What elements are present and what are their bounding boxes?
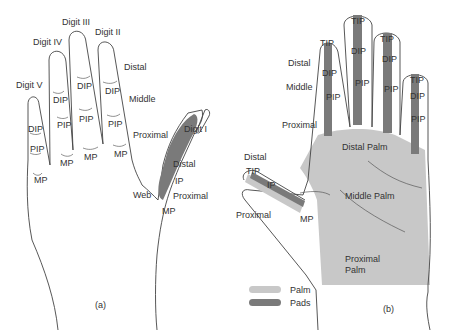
label-thumb-ip-a: IP [175,176,184,186]
label-pip-iv-b: PIP [384,84,399,94]
legend-swatch-pads [249,299,281,306]
label-thumb-ip-b: IP [267,180,276,190]
label-dip-iv-b: DIP [382,54,397,64]
label-pip-ii-b: PIP [326,92,341,102]
label-dip-iv: DIP [53,95,68,105]
panel-b: Distal Middle Proximal TIP DIP PIP TIP D… [236,15,430,330]
panel-a: Digit V Digit IV Digit III Digit II Digi… [16,17,210,330]
label-tip-iii: TIP [351,16,365,26]
caption-a: (a) [95,300,106,310]
label-digit-iv: Digit IV [33,37,62,47]
label-tip-iv: TIP [380,34,394,44]
label-proximal-palm-2: Palm [345,265,366,275]
legend-swatch-palm [249,286,281,293]
label-mp-iv: MP [60,158,74,168]
label-pip-v: PIP [30,144,45,154]
label-distal-a: Distal [124,62,147,72]
label-dip-iii-b: DIP [351,46,366,56]
label-digit-iii: Digit III [62,17,90,27]
label-tip-ii: TIP [320,38,334,48]
label-dip-ii-b: DIP [322,68,337,78]
label-dip-v-b: DIP [410,91,425,101]
label-middle-palm: Middle Palm [345,191,395,201]
label-dip-ii: DIP [105,86,120,96]
label-mp-ii: MP [114,149,128,159]
label-proximal-b: Proximal [282,120,317,130]
label-thumb-proximal-a: Proximal [173,191,208,201]
legend-label-pads: Pads [290,298,311,308]
label-pip-ii: PIP [108,119,123,129]
label-dip-iii: DIP [77,81,92,91]
label-mp-iii: MP [84,152,98,162]
label-digit-i: Digit I [184,124,207,134]
label-pip-iii: PIP [79,114,94,124]
label-mp-v: MP [34,175,48,185]
label-pip-iv: PIP [57,120,72,130]
label-pip-v-b: PIP [411,114,426,124]
label-distal-b: Distal [288,58,311,68]
label-proximal-a: Proximal [133,130,168,140]
hand-diagram: Digit V Digit IV Digit III Digit II Digi… [0,0,450,336]
label-dip-v: DIP [28,124,43,134]
thumb-pad-b [250,172,305,207]
label-proximal-palm-1: Proximal [345,254,380,264]
label-digit-ii: Digit II [95,27,121,37]
label-thumb-proximal-b: Proximal [236,210,271,220]
label-digit-v: Digit V [16,80,43,90]
label-thumb-mp-b: MP [300,214,314,224]
legend-label-palm: Palm [290,285,311,295]
legend: Palm Pads [249,285,311,308]
label-distal-palm: Distal Palm [342,142,388,152]
label-thumb-distal-b: Distal [244,152,267,162]
label-thumb-distal-a: Distal [173,159,196,169]
label-web-a: Web [133,190,151,200]
label-middle-b: Middle [286,82,313,92]
label-thumb-mp-a: MP [162,206,176,216]
label-tip-v: TIP [410,75,424,85]
label-thumb-tip-b: TIP [246,166,260,176]
label-pip-iii-b: PIP [355,78,370,88]
caption-b: (b) [383,304,394,314]
label-middle-a: Middle [129,94,156,104]
